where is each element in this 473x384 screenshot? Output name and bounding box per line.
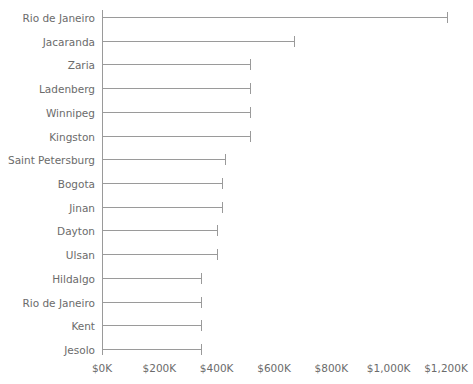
bar[interactable]	[102, 183, 222, 184]
bar-end-cap	[250, 131, 251, 142]
bar[interactable]	[102, 207, 222, 208]
plot-area: Rio de JaneiroJacarandaZariaLadenbergWin…	[0, 0, 473, 384]
x-axis-ticks: $0K$200K$400K$600K$800K$1,000K$1,200K	[0, 355, 473, 383]
category-label: Hildalgo	[52, 267, 95, 291]
bar-end-cap	[217, 249, 218, 260]
table-row[interactable]: Ladenberg	[0, 77, 473, 101]
table-row[interactable]: Jacaranda	[0, 30, 473, 54]
bar-end-cap	[201, 320, 202, 331]
x-tick-label: $400K	[200, 362, 234, 374]
table-row[interactable]: Kingston	[0, 125, 473, 149]
category-label: Kent	[71, 314, 95, 338]
table-row[interactable]: Rio de Janeiro	[0, 291, 473, 315]
bar-end-cap	[201, 344, 202, 355]
bar-end-cap	[201, 297, 202, 308]
bar-chart: Rio de JaneiroJacarandaZariaLadenbergWin…	[0, 0, 473, 384]
bar-end-cap	[222, 202, 223, 213]
bar[interactable]	[102, 112, 250, 113]
table-row[interactable]: Jinan	[0, 196, 473, 220]
bar-end-cap	[250, 107, 251, 118]
table-row[interactable]: Hildalgo	[0, 267, 473, 291]
bar[interactable]	[102, 88, 250, 89]
bar-end-cap	[225, 154, 226, 165]
category-label: Dayton	[57, 219, 95, 243]
table-row[interactable]: Dayton	[0, 219, 473, 243]
bar-end-cap	[217, 225, 218, 236]
category-label: Jacaranda	[43, 30, 95, 54]
category-label: Kingston	[49, 125, 95, 149]
bar-end-cap	[222, 178, 223, 189]
bar[interactable]	[102, 64, 250, 65]
table-row[interactable]: Saint Petersburg	[0, 148, 473, 172]
bar[interactable]	[102, 41, 294, 42]
category-label: Ulsan	[66, 243, 95, 267]
bar[interactable]	[102, 325, 201, 326]
bar-end-cap	[447, 12, 448, 23]
bar[interactable]	[102, 349, 201, 350]
bar[interactable]	[102, 136, 250, 137]
table-row[interactable]: Ulsan	[0, 243, 473, 267]
x-tick-label: $1,200K	[424, 362, 468, 374]
table-row[interactable]: Rio de Janeiro	[0, 6, 473, 30]
bar-end-cap	[201, 273, 202, 284]
category-label: Ladenberg	[39, 77, 95, 101]
category-label: Zaria	[68, 53, 95, 77]
category-label: Jinan	[69, 196, 95, 220]
bar[interactable]	[102, 302, 201, 303]
table-row[interactable]: Zaria	[0, 53, 473, 77]
category-label: Winnipeg	[46, 101, 95, 125]
bar[interactable]	[102, 17, 447, 18]
bar-end-cap	[250, 83, 251, 94]
table-row[interactable]: Kent	[0, 314, 473, 338]
x-tick-label: $600K	[257, 362, 291, 374]
bar[interactable]	[102, 278, 201, 279]
bar-end-cap	[250, 59, 251, 70]
category-label: Rio de Janeiro	[22, 6, 95, 30]
bar[interactable]	[102, 159, 225, 160]
table-row[interactable]: Bogota	[0, 172, 473, 196]
category-label: Saint Petersburg	[8, 148, 95, 172]
x-tick-label: $800K	[315, 362, 349, 374]
x-tick-label: $1,000K	[367, 362, 411, 374]
x-tick-label: $200K	[143, 362, 177, 374]
bar-end-cap	[294, 36, 295, 47]
bar[interactable]	[102, 254, 217, 255]
category-label: Bogota	[58, 172, 95, 196]
x-tick-label: $0K	[92, 362, 112, 374]
table-row[interactable]: Winnipeg	[0, 101, 473, 125]
bar[interactable]	[102, 230, 217, 231]
category-label: Rio de Janeiro	[22, 291, 95, 315]
